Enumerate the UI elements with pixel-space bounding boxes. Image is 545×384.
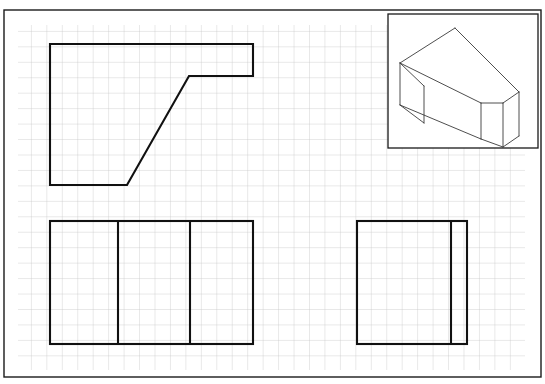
isometric-view-panel xyxy=(388,14,538,148)
technical-drawing-canvas xyxy=(0,0,545,384)
worksheet-page xyxy=(0,0,545,384)
isometric-view-frame xyxy=(388,14,538,148)
